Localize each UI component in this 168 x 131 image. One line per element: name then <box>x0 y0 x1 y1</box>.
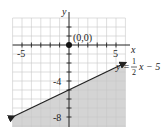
x-axis-label: x <box>130 44 136 55</box>
equation-numerator: 1 <box>132 57 136 66</box>
y-tick-label-neg4: -4 <box>53 76 61 87</box>
x-tick-label-neg5: -5 <box>17 48 25 59</box>
y-tick-label-neg8: -8 <box>53 112 61 123</box>
graph-canvas: y x (0,0) -5 5 -4 -8 y = 1 2 x − 5 <box>0 0 168 131</box>
equation-denominator: 2 <box>132 68 136 77</box>
origin-label: (0,0) <box>73 32 92 44</box>
equation-rhs: x − 5 <box>138 61 160 72</box>
y-axis-label: y <box>61 6 67 17</box>
origin-point <box>66 42 72 48</box>
x-tick-label-5: 5 <box>113 48 118 59</box>
equation-lhs: y = <box>115 61 130 72</box>
